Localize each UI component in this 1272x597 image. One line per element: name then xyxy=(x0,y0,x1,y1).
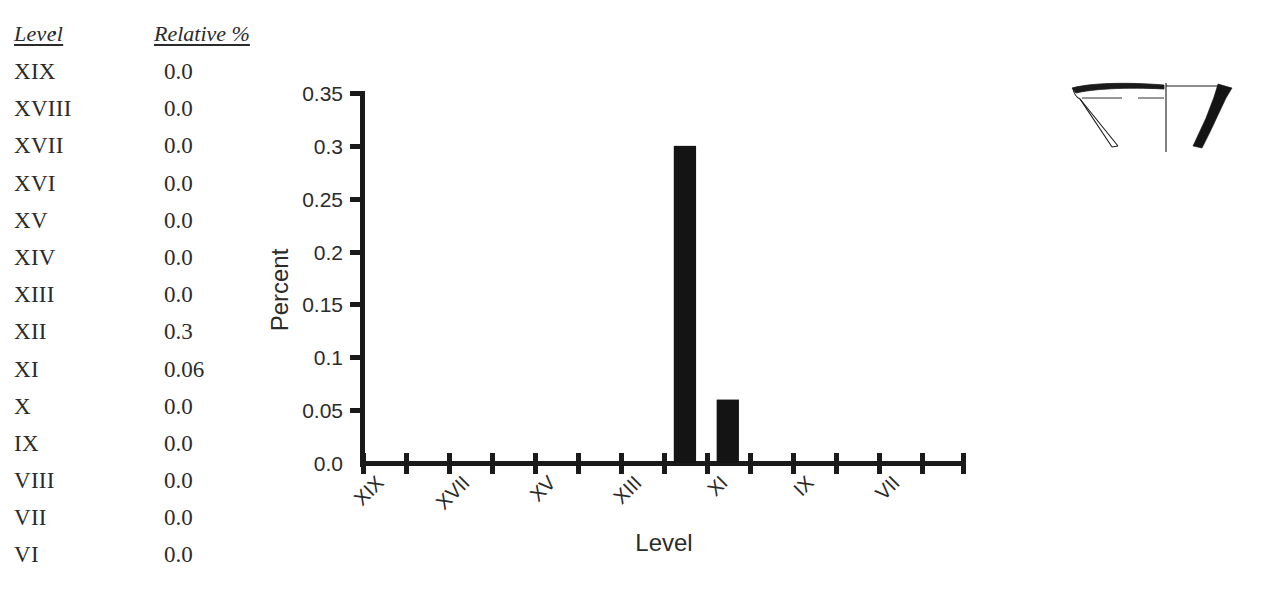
x-tick-label: XVII xyxy=(432,471,474,513)
x-tick-label: XIII xyxy=(609,471,646,508)
y-tick xyxy=(350,250,365,255)
y-tick-label: 0.25 xyxy=(302,188,343,211)
y-tick-label: 0.0 xyxy=(314,452,343,475)
x-axis-title: Level xyxy=(635,529,692,556)
x-tick xyxy=(490,453,495,474)
x-axis-tick-labels: XIX XVII XV XIII XI IX VII xyxy=(349,471,903,514)
x-tick xyxy=(834,453,839,474)
x-tick-label: VII xyxy=(871,471,904,504)
y-axis-tick-labels: 0.35 0.3 0.25 0.2 0.15 0.1 0.05 0.0 xyxy=(302,82,343,475)
ceramic-rim-profile-drawing xyxy=(1060,62,1250,172)
sherd-filled-section xyxy=(1193,84,1232,148)
x-tick xyxy=(447,453,452,474)
percent-by-level-bar-chart: Percent Level 0.35 0.3 0.25 0.2 0.15 0.1… xyxy=(0,0,1020,597)
y-tick xyxy=(350,408,365,413)
x-tick xyxy=(748,453,753,474)
y-tick-label: 0.35 xyxy=(302,82,343,105)
y-tick-label: 0.1 xyxy=(314,346,343,369)
y-tick xyxy=(350,144,365,149)
bars-layer xyxy=(674,146,739,463)
y-tick xyxy=(350,197,365,202)
y-tick xyxy=(350,91,365,96)
y-tick-label: 0.05 xyxy=(302,399,343,422)
x-tick xyxy=(361,453,366,474)
x-tick-label: IX xyxy=(789,471,818,500)
y-axis-title: Percent xyxy=(266,248,293,331)
x-tick xyxy=(404,453,409,474)
sherd-base-edge xyxy=(1112,146,1118,147)
x-tick xyxy=(961,453,966,474)
x-tick-label: XI xyxy=(703,471,732,500)
x-tick-label: XIX xyxy=(349,471,387,509)
x-tick xyxy=(920,453,925,474)
bar-XI xyxy=(717,400,739,463)
bar-XII xyxy=(674,146,696,463)
x-tick xyxy=(533,453,538,474)
sherd-body-outline-inner xyxy=(1080,99,1118,146)
sherd-exterior-outline xyxy=(1072,83,1164,93)
x-tick xyxy=(662,453,667,474)
y-tick-label: 0.15 xyxy=(302,293,343,316)
x-tick xyxy=(705,453,710,474)
x-tick xyxy=(576,453,581,474)
y-tick-label: 0.2 xyxy=(314,241,343,264)
x-tick xyxy=(619,453,624,474)
y-tick xyxy=(350,302,365,307)
y-tick-label: 0.3 xyxy=(314,135,343,158)
x-tick xyxy=(877,453,882,474)
x-tick-label: XV xyxy=(525,471,560,506)
y-tick xyxy=(350,355,365,360)
x-tick xyxy=(791,453,796,474)
